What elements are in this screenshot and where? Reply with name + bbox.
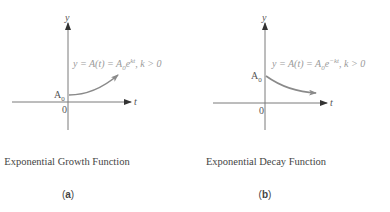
panel-b-graph: y t 0 A0 y = A(t) = A0e−kt, k > 0	[213, 12, 365, 130]
x-axis-label: t	[330, 97, 333, 108]
y-axis-label: y	[64, 12, 70, 23]
sublabel-b: (b)	[259, 189, 272, 200]
caption-growth: Exponential Growth Function	[4, 156, 129, 167]
panel-a-graph: y t 0 A0 y = A(t) = A0ekt, k > 0	[12, 12, 161, 130]
caption-decay: Exponential Decay Function	[206, 156, 326, 167]
decay-equation: y = A(t) = A0e−kt, k > 0	[271, 57, 365, 72]
decay-curve	[266, 76, 316, 93]
origin-label: 0	[62, 104, 67, 115]
figure-canvas: y t 0 A0 y = A(t) = A0ekt, k > 0 y t 0 A…	[0, 0, 390, 212]
x-axis-label: t	[134, 96, 137, 107]
growth-equation: y = A(t) = A0ekt, k > 0	[72, 57, 161, 72]
sublabel-a: (a)	[62, 189, 74, 200]
y-axis-label: y	[261, 12, 267, 23]
growth-curve	[69, 75, 118, 95]
intercept-label: A0	[54, 89, 65, 103]
origin-label: 0	[259, 105, 264, 116]
intercept-label: A0	[251, 70, 262, 84]
